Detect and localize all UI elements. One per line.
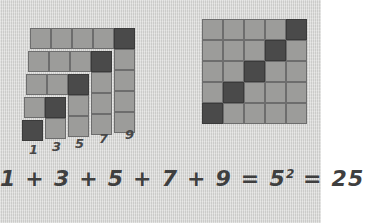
equation-text: 1 + 3 + 5 + 7 + 9 = 52 = 25 [0,168,321,190]
odd-label-5: 5 [75,137,84,150]
square-cell [223,19,244,40]
gnomon-corner-cell [22,120,43,141]
square-cell [244,19,265,40]
gnomon-cell [70,51,91,72]
square-cell [286,61,307,82]
square-cell [202,82,223,103]
equation-term-3: 3 [54,166,71,191]
gnomon-corner-cell [91,51,112,72]
square-cell [223,61,244,82]
square-diagonal-cell [202,103,223,124]
odd-label-3: 3 [52,140,61,153]
equation-result: 25 [332,166,365,191]
square-cell [223,40,244,61]
gnomon-corner-cell [114,28,135,49]
gnomon-cell [114,91,135,112]
equation-plus-2: + [70,166,107,191]
gnomon-cell [91,93,112,114]
square-cell [244,40,265,61]
gnomon-cell [68,116,89,137]
odd-label-9: 9 [125,128,134,141]
equation-term-7: 7 [162,166,179,191]
gnomon-corner-cell [45,97,66,118]
gnomon-cell [30,28,51,49]
equation-term-9: 9 [216,166,233,191]
equation-plus-4: + [178,166,215,191]
square-cell [244,82,265,103]
square-cell [286,82,307,103]
gnomon-corner-cell [68,74,89,95]
gnomon-cell [28,51,49,72]
square-cell [286,103,307,124]
gnomon-cell [93,28,114,49]
square-cell [202,40,223,61]
square-cell [202,19,223,40]
gnomon-cell [45,118,66,139]
gnomon-cell [24,97,45,118]
gnomon-cell [114,70,135,91]
gnomon-cell [47,74,68,95]
equation-equals-1: = [232,166,269,191]
equation-plus-1: + [17,166,54,191]
equation-exponent: 2 [286,167,294,181]
gnomon-cell [68,95,89,116]
odd-label-7: 7 [99,132,108,145]
gnomon-cell [114,49,135,70]
square-cell [265,103,286,124]
equation-base: 5 [269,166,286,191]
odd-label-1: 1 [29,143,38,156]
square-diagonal-cell [223,82,244,103]
gnomon-cell [72,28,93,49]
equation-plus-3: + [124,166,161,191]
gnomon-cell [26,74,47,95]
gnomon-cell [49,51,70,72]
gnomon-cell [51,28,72,49]
equation-term-5: 5 [108,166,125,191]
square-diagonal-cell [265,40,286,61]
equation-equals-2: = [294,166,331,191]
square-cell [265,82,286,103]
square-diagonal-cell [286,19,307,40]
gnomon-cell [91,72,112,93]
square-cell [244,103,265,124]
square-cell [265,19,286,40]
square-cell [265,61,286,82]
square-diagonal-cell [244,61,265,82]
square-cell [286,40,307,61]
equation-term-1: 1 [0,166,17,191]
square-cell [223,103,244,124]
square-cell [202,61,223,82]
